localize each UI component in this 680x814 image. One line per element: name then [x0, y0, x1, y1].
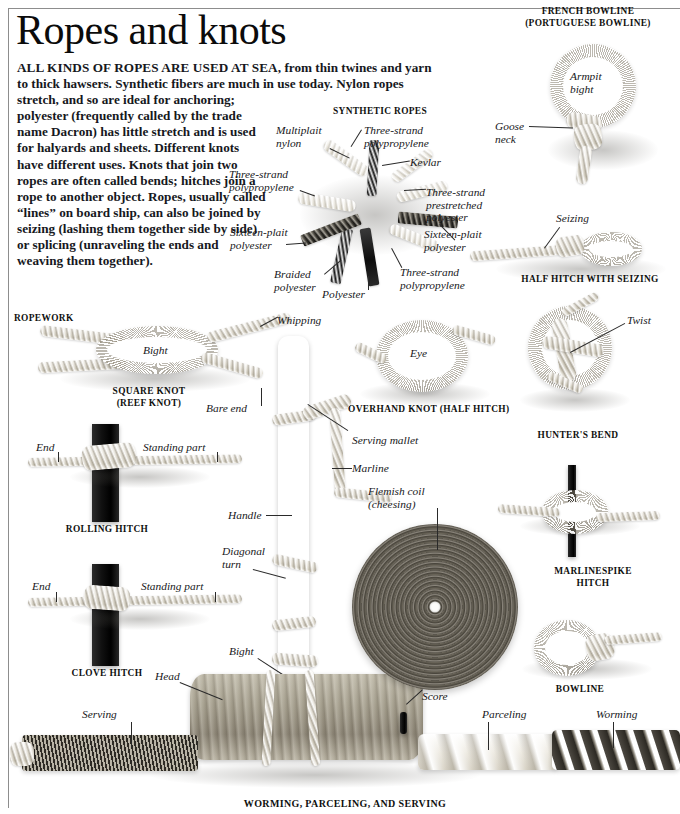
label-three-strand-prestretched-polyester: Three-strand prestretched polyester	[426, 186, 485, 224]
bowline-standing-part-rope	[604, 632, 662, 645]
label-tspp-line1: Three-strand	[426, 186, 485, 199]
section-hunters-bend: HUNTER'S BEND	[518, 430, 638, 442]
leader-handle	[266, 515, 292, 516]
rolling-hitch-knot-wraps	[81, 442, 137, 472]
label-flemish-coil: Flemish coil (cheesing)	[368, 485, 425, 510]
label-multiplait-nylon-line2: nylon	[276, 137, 322, 150]
label-head: Head	[155, 670, 180, 683]
section-clove-hitch: CLOVE HITCH	[52, 668, 162, 680]
label-multiplait-nylon: Multiplait nylon	[276, 124, 322, 149]
clove-hitch-knot-wraps	[83, 584, 131, 611]
label-three-strand-polypropylene-top: Three-strand polypropylene	[364, 124, 429, 149]
label-diagonal-turn-line2: turn	[222, 558, 265, 571]
label-whipping: Whipping	[277, 314, 321, 327]
label-score: Score	[422, 690, 448, 703]
label-standing-part-clove: Standing part	[141, 580, 203, 593]
page-rule-left	[8, 8, 9, 808]
leader-polyester	[368, 276, 369, 290]
hawser-worming-section	[552, 730, 680, 770]
leader-parceling	[488, 722, 489, 750]
half-hitch-eye-loop	[580, 232, 642, 266]
french-bowline-shadow	[548, 130, 658, 170]
intro-lead-in: ALL KINDS OF ROPES ARE USED AT SEA,	[17, 60, 281, 75]
label-seizing: Seizing	[556, 212, 589, 225]
section-square-knot: SQUARE KNOT	[78, 386, 220, 398]
label-tspp-line2: prestretched	[426, 199, 485, 212]
label-armpit-bight: Armpit bight	[570, 70, 602, 95]
clove-hitch-standing-part-rope	[28, 594, 242, 607]
section-square-knot-alt: (REEF KNOT)	[78, 398, 220, 410]
hawser-serving-tail-end	[10, 742, 34, 766]
label-sixteen-plait-polyester-left: Sixteen-plait polyester	[230, 226, 288, 251]
page-title: Ropes and knots	[16, 6, 286, 54]
label-goose-neck: Goose neck	[495, 120, 524, 145]
label-end-rolling: End	[36, 441, 54, 454]
label-tsp-bottom-line2: polypropylene	[400, 279, 465, 292]
clove-hitch-shadow	[70, 608, 210, 630]
label-flemish-coil-line2: (cheesing)	[368, 498, 425, 511]
leader-end-clove	[56, 592, 57, 602]
label-bight-square-knot: Bight	[143, 344, 168, 357]
label-worming: Worming	[596, 708, 637, 721]
leader-serving	[131, 722, 132, 748]
label-tsp-bottom-line1: Three-strand	[400, 266, 465, 279]
section-worming-parceling-serving: WORMING, PARCELING, AND SERVING	[185, 798, 505, 810]
label-armpit-bight-line1: Armpit	[570, 70, 602, 83]
label-braided-polyester: Braided polyester	[274, 268, 316, 293]
label-three-strand-polypropylene-left: Three-strand polypropylene	[229, 168, 294, 193]
section-french-bowline: FRENCH BOWLINE	[500, 6, 676, 18]
flemish-coil	[352, 524, 518, 690]
label-diagonal-turn: Diagonal turn	[222, 545, 265, 570]
leader-marline	[332, 468, 352, 469]
label-parceling: Parceling	[482, 708, 527, 721]
section-overhand-knot: OVERHAND KNOT (HALF HITCH)	[348, 404, 508, 416]
label-spp-left-line2: polyester	[230, 239, 288, 252]
section-synthetic-ropes: SYNTHETIC ROPES	[310, 106, 450, 118]
label-handle: Handle	[228, 509, 262, 522]
leader-end-rolling	[58, 452, 59, 462]
label-three-strand-polypropylene-bottom: Three-strand polypropylene	[400, 266, 465, 291]
leader-worming	[613, 722, 614, 748]
label-sixteen-plait-polyester-right: Sixteen-plait polyester	[424, 228, 482, 253]
label-multiplait-nylon-line1: Multiplait	[276, 124, 322, 137]
label-tsp-top-line1: Three-strand	[364, 124, 429, 137]
label-tsp-left-line2: polypropylene	[229, 181, 294, 194]
serving-mallet-handle	[278, 336, 309, 684]
label-polyester: Polyester	[322, 288, 365, 301]
label-braided-line2: polyester	[274, 281, 316, 294]
label-standing-part-rolling: Standing part	[143, 441, 205, 454]
label-diagonal-turn-line1: Diagonal	[222, 545, 265, 558]
leader-goose-neck	[529, 126, 573, 129]
label-serving-mallet: Serving mallet	[352, 434, 418, 447]
label-goose-neck-line2: neck	[495, 133, 524, 146]
label-twist: Twist	[627, 314, 651, 327]
leader-standing-part-rolling	[217, 452, 218, 462]
mallet-head-score-notch	[400, 712, 407, 734]
encyclopedia-page: Ropes and knots ALL KINDS OF ROPES ARE U…	[0, 0, 680, 814]
section-marlinespike-hitch-line1: MARLINESPIKE	[514, 566, 672, 578]
label-flemish-coil-line1: Flemish coil	[368, 485, 425, 498]
label-tspp-line3: polyester	[426, 211, 485, 224]
label-marline: Marline	[352, 462, 389, 475]
marlinespike-standing-rope-right	[596, 511, 660, 522]
label-tsp-left-line1: Three-strand	[229, 168, 294, 181]
label-armpit-bight-line2: bight	[570, 83, 602, 96]
section-ropework: ROPEWORK	[14, 313, 94, 325]
section-french-bowline-alt: (PORTUGUESE BOWLINE)	[500, 18, 676, 30]
label-serving: Serving	[82, 708, 117, 721]
label-spp-left-line1: Sixteen-plait	[230, 226, 288, 239]
label-end-clove: End	[32, 580, 50, 593]
section-marlinespike-hitch-line2: HITCH	[514, 578, 672, 590]
section-half-hitch-with-seizing: HALF HITCH WITH SEIZING	[506, 274, 674, 286]
section-bowline: BOWLINE	[520, 684, 640, 696]
leader-bare-end	[261, 388, 262, 406]
leader-flemish-coil	[437, 508, 438, 550]
leader-standing-part-clove	[215, 592, 216, 602]
label-bight-mallet: Bight	[229, 645, 254, 658]
label-tsp-top-line2: polypropylene	[364, 137, 429, 150]
label-goose-neck-line1: Goose	[495, 120, 524, 133]
section-rolling-hitch: ROLLING HITCH	[48, 524, 166, 536]
label-braided-line1: Braided	[274, 268, 316, 281]
label-kevlar: Kevlar	[410, 156, 441, 169]
hawser-serving-section	[22, 735, 198, 771]
